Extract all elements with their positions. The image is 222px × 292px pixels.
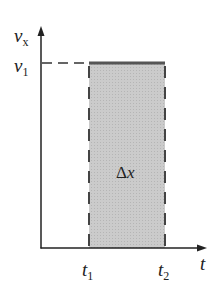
y-axis-label: vx: [14, 26, 28, 48]
x-axis-label: t: [200, 254, 205, 273]
v1-label: v1: [14, 56, 28, 78]
t2-label: t2: [158, 260, 169, 282]
delta-x-label: Δx: [116, 163, 134, 183]
area-region: [89, 62, 165, 248]
y-axis-arrow-icon: [38, 26, 45, 36]
x-axis-arrow-icon: [197, 245, 207, 252]
vt-graph: [0, 0, 222, 292]
t1-label: t1: [82, 260, 93, 282]
